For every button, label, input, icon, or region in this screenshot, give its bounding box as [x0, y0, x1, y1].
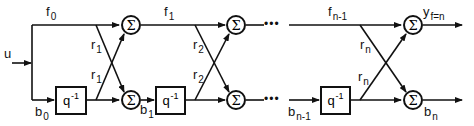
signal-f0: f0 [46, 5, 56, 18]
coef-r1-top: r1 [91, 38, 102, 51]
signal-b1: b1 [140, 103, 154, 116]
delay-label: q [327, 93, 334, 108]
delay-exponent: -1 [171, 91, 179, 101]
input-label: u [4, 47, 11, 60]
coef-rn-bottom: rn [358, 70, 369, 83]
coef-r2-bottom: r2 [193, 68, 204, 81]
sigma-icon: Σ [231, 93, 240, 108]
signal-bn-1: bn-1 [288, 105, 311, 118]
coef-r2-top: r2 [193, 38, 204, 51]
sum-node-1-bottom: Σ [121, 90, 141, 110]
sum-node-n-top: Σ [403, 15, 423, 35]
coef-rn-top: rn [360, 38, 371, 51]
signal-b0: b0 [35, 105, 49, 118]
sigma-icon: Σ [126, 18, 135, 33]
sigma-icon: Σ [126, 93, 135, 108]
delay-block-1: q-1 [55, 86, 87, 115]
delay-label: q [63, 93, 70, 108]
sum-node-2-top: Σ [226, 15, 246, 35]
lattice-filter-diagram: Σ Σ Σ Σ Σ Σ q-1 q-1 q-1 ••• ••• u f0 b0 … [0, 0, 474, 126]
output-y: yf=n [423, 5, 445, 18]
sigma-icon: Σ [231, 18, 240, 33]
sum-node-2-bottom: Σ [226, 90, 246, 110]
coef-r1-bottom: r1 [91, 68, 102, 81]
sigma-icon: Σ [408, 93, 417, 108]
delay-label: q [162, 93, 169, 108]
ellipsis-top: ••• [264, 18, 280, 30]
delay-block-n: q-1 [320, 86, 351, 115]
sum-node-n-bottom: Σ [403, 90, 423, 110]
delay-exponent: -1 [336, 91, 344, 101]
signal-fn-1: fn-1 [328, 5, 347, 18]
sum-node-1-top: Σ [121, 15, 141, 35]
signal-f1: f1 [164, 5, 174, 18]
sigma-icon: Σ [408, 18, 417, 33]
signal-bn: bn [424, 105, 438, 118]
ellipsis-bottom: ••• [264, 93, 280, 105]
delay-block-2: q-1 [155, 86, 186, 115]
delay-exponent: -1 [71, 91, 79, 101]
